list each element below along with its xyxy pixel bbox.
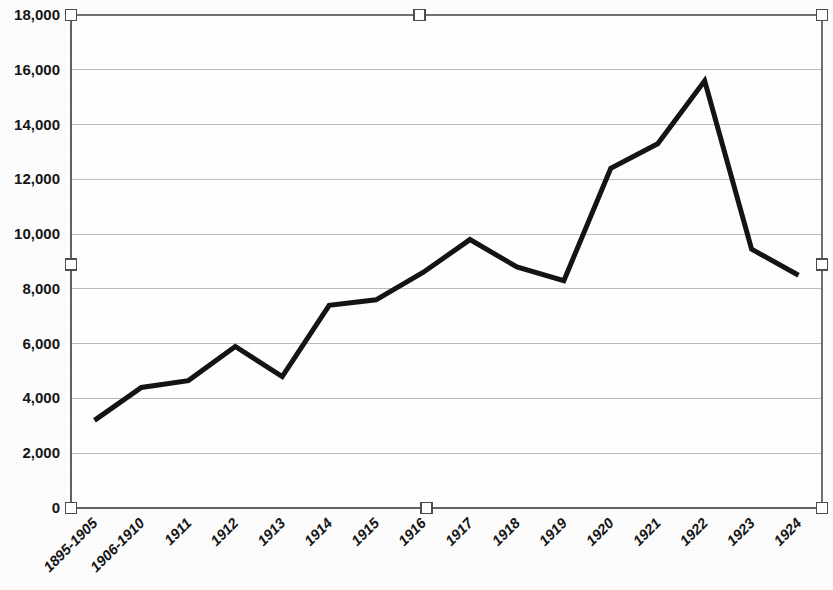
x-axis-tick-label: 1921 [630, 515, 664, 549]
selection-handle-bottom-center[interactable] [421, 503, 432, 514]
x-axis-tick-label: 1920 [583, 515, 617, 549]
x-axis-tick-label: 1911 [161, 515, 194, 548]
selection-handle-bottom-right[interactable] [817, 503, 828, 514]
x-axis-tick-label: 1919 [536, 515, 570, 549]
y-axis-tick-label: 2,000 [22, 444, 60, 461]
x-axis-tick-label: 1915 [348, 514, 383, 549]
x-axis-tick-label: 1923 [724, 515, 758, 549]
selection-handle-top-left[interactable] [66, 10, 77, 21]
y-axis-tick-label: 4,000 [22, 389, 60, 406]
selection-handle-bottom-left[interactable] [66, 503, 77, 514]
y-axis-tick-label: 0 [52, 499, 60, 516]
x-axis-tick-label: 1914 [301, 515, 335, 549]
selection-handle-middle-left[interactable] [66, 259, 77, 270]
y-axis-tick-label: 12,000 [14, 170, 60, 187]
chart-object[interactable]: 02,0004,0006,0008,00010,00012,00014,0001… [0, 0, 833, 590]
x-axis-tick-label: 1918 [489, 514, 524, 549]
y-axis-tick-label: 16,000 [14, 61, 60, 78]
selection-handle-top-center[interactable] [414, 10, 425, 21]
selection-handle-top-right[interactable] [817, 10, 828, 21]
y-axis-tick-label: 8,000 [22, 280, 60, 297]
selection-handle-middle-right[interactable] [817, 259, 828, 270]
y-axis-tick-label: 14,000 [14, 116, 60, 133]
x-axis-tick-label: 1916 [395, 514, 430, 549]
line-chart[interactable]: 02,0004,0006,0008,00010,00012,00014,0001… [0, 0, 833, 590]
y-axis-tick-labels: 02,0004,0006,0008,00010,00012,00014,0001… [14, 6, 60, 516]
x-axis-tick-label: 1913 [254, 515, 288, 549]
x-axis-tick-label: 1917 [442, 514, 477, 549]
y-axis-tick-label: 10,000 [14, 225, 60, 242]
x-axis-tick-label: 1922 [677, 515, 711, 549]
x-axis-tick-label: 1924 [771, 515, 805, 549]
x-axis-tick-label: 1912 [207, 515, 241, 549]
y-axis-tick-label: 18,000 [14, 6, 60, 23]
x-axis-tick-labels: 1895-19051906-19101911191219131914191519… [40, 514, 804, 575]
y-axis-tick-label: 6,000 [22, 335, 60, 352]
